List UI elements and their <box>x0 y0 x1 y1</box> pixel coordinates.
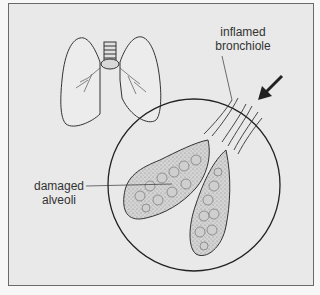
airflow-arrow-icon <box>258 76 282 100</box>
label-line-2: bronchiole <box>208 39 278 53</box>
alveoli-illustration <box>124 140 230 256</box>
label-line-1: damaged <box>28 179 90 193</box>
label-inflamed-bronchiole: inflamed bronchiole <box>208 25 278 53</box>
bronchiole-leader-line <box>222 56 232 100</box>
lungs-icon <box>61 37 161 126</box>
bronchiole-illustration <box>204 98 262 154</box>
label-line-1: inflamed <box>208 25 278 39</box>
label-line-2: alveoli <box>28 193 90 207</box>
label-damaged-alveoli: damaged alveoli <box>28 179 90 207</box>
